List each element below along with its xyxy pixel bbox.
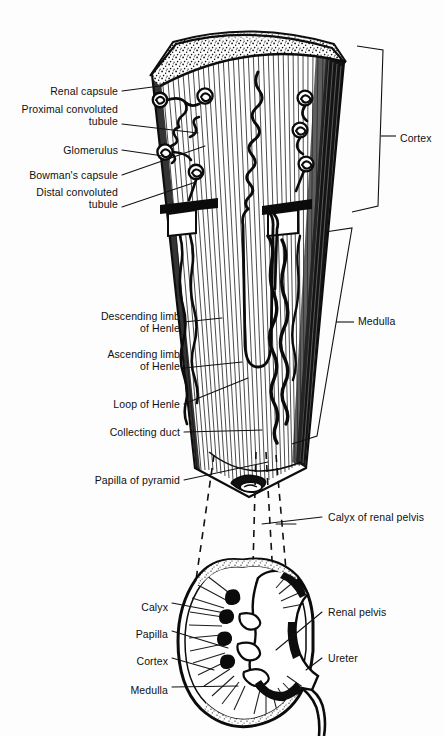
- label-calyx: Calyx: [141, 601, 168, 614]
- label-loop-of-henle: Loop of Henle: [113, 398, 180, 411]
- label-ureter: Ureter: [328, 652, 358, 665]
- label-distal-tubule: Distal convoluted tubule: [36, 186, 118, 211]
- label-cortex: Cortex: [136, 655, 168, 668]
- label-collecting-duct: Collecting duct: [110, 426, 180, 439]
- renal-pyramid-wedge: [140, 14, 360, 497]
- label-medulla-bracket: Medulla: [358, 315, 395, 328]
- label-bowmans-capsule: Bowman's capsule: [29, 169, 118, 182]
- label-medulla: Medulla: [131, 684, 168, 697]
- label-renal-capsule: Renal capsule: [50, 85, 118, 98]
- label-papilla: Papilla: [136, 628, 168, 641]
- kidney-diagram-figure: Renal capsuleProximal convoluted tubuleG…: [0, 0, 444, 736]
- label-proximal-tubule: Proximal convoluted tubule: [22, 103, 118, 128]
- label-renal-pelvis: Renal pelvis: [328, 606, 386, 619]
- kidney-cross-section: [178, 559, 325, 736]
- label-calyx-of-renal-pelvis: Calyx of renal pelvis: [328, 511, 424, 524]
- label-glomerulus: Glomerulus: [63, 144, 118, 157]
- label-ascending-limb: Ascending limb of Henle: [107, 348, 180, 373]
- label-cortex-bracket: Cortex: [400, 132, 432, 145]
- label-papilla-of-pyramid: Papilla of pyramid: [95, 474, 180, 487]
- ureter-shape: [302, 688, 325, 736]
- cortex-bracket: [352, 46, 396, 212]
- label-descending-limb: Descending limb of Henle: [101, 310, 180, 335]
